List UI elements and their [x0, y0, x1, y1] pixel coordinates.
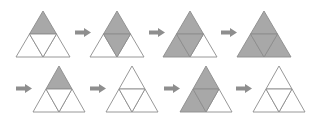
right-arrow-icon: [149, 28, 165, 37]
right-arrow-icon: [90, 84, 106, 93]
subdivided-triangle: [16, 11, 70, 57]
sub-triangle-top: [30, 11, 57, 34]
triangle-sequence-diagram: [0, 0, 316, 125]
sub-triangle-top: [266, 66, 292, 89]
subdivided-triangle: [106, 66, 158, 112]
subdivided-triangle: [33, 66, 85, 112]
diagram-canvas: [0, 0, 316, 125]
sub-triangle-top: [193, 66, 219, 89]
right-arrow-icon: [164, 84, 180, 93]
right-arrow-icon: [236, 84, 252, 93]
right-arrow-icon: [221, 28, 237, 37]
right-arrow-icon: [16, 84, 32, 93]
sub-triangle-top: [119, 66, 145, 89]
sub-triangle-top: [177, 11, 204, 34]
subdivided-triangle: [253, 66, 305, 112]
subdivided-triangle: [90, 11, 144, 57]
right-arrow-icon: [75, 28, 91, 37]
subdivided-triangle: [163, 11, 217, 57]
sub-triangle-top: [251, 11, 278, 34]
sub-triangle-top: [46, 66, 72, 89]
sub-triangle-top: [104, 11, 131, 34]
subdivided-triangle: [180, 66, 232, 112]
subdivided-triangle: [237, 11, 291, 57]
